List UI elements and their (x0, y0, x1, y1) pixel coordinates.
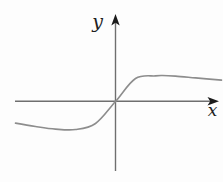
figure-canvas: y x (0, 0, 223, 182)
function-graph-figure: y x (0, 0, 223, 182)
figure-background (0, 0, 223, 182)
y-axis-label: y (91, 10, 103, 32)
x-axis-label: x (208, 100, 218, 120)
